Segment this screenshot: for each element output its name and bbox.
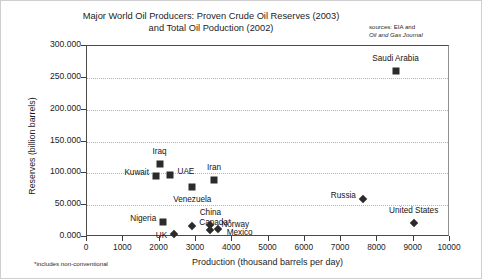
data-point-label: Kuwait (124, 168, 149, 177)
gridline (87, 142, 448, 143)
data-point-label: Saudi Arabia (372, 54, 418, 63)
y-tick-label: 100.000 (27, 166, 81, 176)
chart-title-line-1: Major World Oil Producers: Proven Crude … (61, 10, 361, 22)
y-tick-label: 200.000 (27, 103, 81, 113)
sources-note: sources: EIA and Oil and Gas Journal (369, 23, 479, 39)
gridline (87, 78, 448, 79)
data-point-label: Iraq (153, 147, 167, 156)
x-tick-label: 3000 (186, 242, 204, 252)
chart-footnote: *includes non-conventional (34, 260, 108, 267)
sources-line-1: sources: EIA and (369, 23, 479, 31)
data-point-label: Russia (331, 191, 356, 200)
data-point-label: China (200, 208, 221, 217)
data-point-marker (392, 67, 399, 74)
y-tick-label: 50.000 (27, 198, 81, 208)
data-point-marker (189, 184, 196, 191)
data-point-marker (152, 172, 159, 179)
x-tick-label: 5000 (258, 242, 276, 252)
x-tick-label: 8000 (367, 242, 385, 252)
sources-line-2: Oil and Gas Journal (369, 31, 479, 39)
x-tick-mark (122, 236, 123, 241)
x-tick-label: 6000 (295, 242, 313, 252)
x-tick-mark (449, 236, 450, 241)
x-tick-mark (376, 236, 377, 241)
data-point-label: United States (389, 206, 438, 215)
data-point-label: UAE (177, 167, 194, 176)
y-tick-label: 150.000 (27, 135, 81, 145)
x-tick-label: 7000 (331, 242, 349, 252)
data-point-label: Iran (207, 163, 221, 172)
data-point-label: Venezuela (173, 195, 211, 204)
chart-figure: Major World Oil Producers: Proven Crude … (0, 0, 482, 279)
data-point-marker (409, 218, 417, 226)
x-tick-label: 1000 (113, 242, 131, 252)
x-tick-label: 9000 (403, 242, 421, 252)
y-tick-label: 300.000 (27, 39, 81, 49)
data-point-label: Nigeria (130, 214, 156, 223)
x-tick-mark (304, 236, 305, 241)
y-tick-label: 0.000 (27, 230, 81, 240)
x-axis-title: Production (thousand barrels per day) (86, 257, 449, 267)
x-tick-label: 4000 (222, 242, 240, 252)
x-tick-label: 0 (84, 242, 89, 252)
gridline (87, 110, 448, 111)
x-tick-mark (231, 236, 232, 241)
x-tick-label: 2000 (149, 242, 167, 252)
x-tick-mark (413, 236, 414, 241)
chart-title: Major World Oil Producers: Proven Crude … (61, 10, 361, 34)
x-tick-mark (86, 236, 87, 241)
y-tick-label: 250.000 (27, 71, 81, 81)
x-tick-label: 10000 (437, 242, 460, 252)
chart-title-line-2: and Total Oil Poduction (2002) (61, 22, 361, 34)
data-point-marker (156, 160, 163, 167)
x-tick-mark (340, 236, 341, 241)
data-point-marker (167, 171, 174, 178)
data-point-marker (160, 218, 167, 225)
plot-area: Saudi ArabiaIraqUAEKuwaitIranVenezuelaRu… (86, 45, 449, 236)
y-axis-title-holder: Reserves (billion barrels) (1, 45, 2, 236)
data-point-marker (188, 222, 196, 230)
x-tick-mark (159, 236, 160, 241)
data-point-marker (359, 195, 367, 203)
data-point-marker (170, 230, 178, 238)
x-tick-mark (195, 236, 196, 241)
data-point-label: UK (156, 231, 167, 240)
x-tick-mark (268, 236, 269, 241)
data-point-marker (211, 176, 218, 183)
